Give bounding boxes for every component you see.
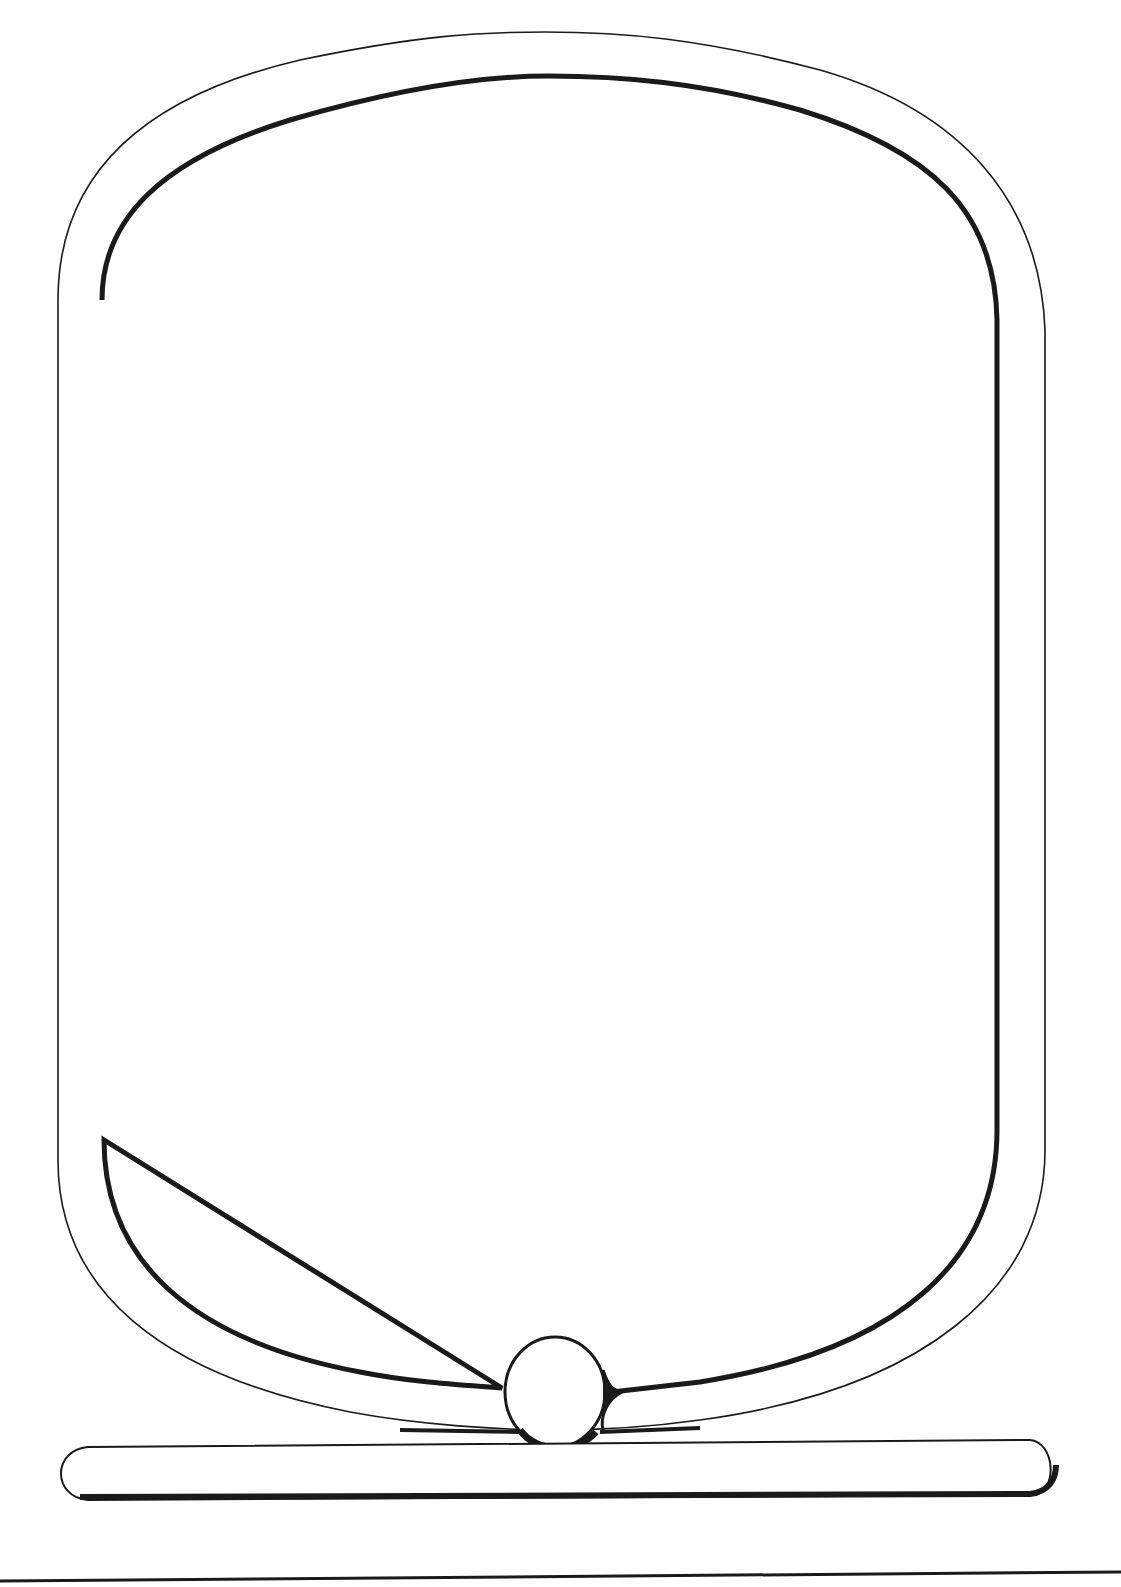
cartouche-drawing — [0, 0, 1121, 1587]
inner-outline — [102, 76, 997, 1392]
outer-outline — [58, 32, 1045, 1430]
bottom-rule — [0, 1572, 1121, 1581]
base-bar — [61, 1440, 1051, 1500]
